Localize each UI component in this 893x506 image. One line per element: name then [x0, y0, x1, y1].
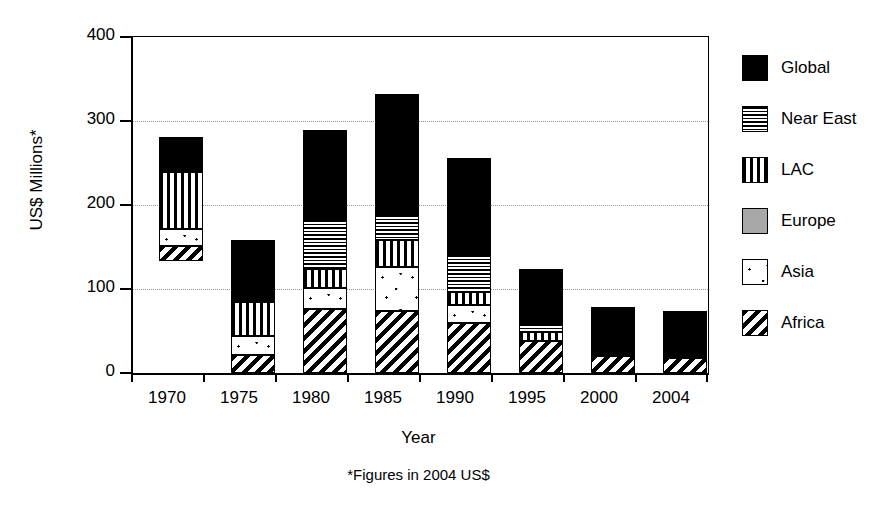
y-tick-mark-200	[120, 204, 131, 206]
bar-2004-segment-africa	[663, 358, 707, 373]
x-axis-title: Year	[131, 428, 706, 448]
bar-1975-segment-lac	[231, 302, 275, 336]
x-tick-label-1980: 1980	[276, 389, 346, 406]
y-tick-mark-400	[120, 36, 131, 38]
legend-swatch-global-icon	[742, 55, 768, 81]
y-axis-title: US$ Millions*	[27, 80, 47, 280]
bar-2000-segment-africa	[591, 356, 635, 373]
legend-label-global: Global	[781, 58, 830, 78]
bar-2004-segment-global	[663, 311, 707, 358]
bar-1970-segment-lac	[159, 172, 203, 229]
legend-swatch-lac-icon	[742, 157, 768, 183]
x-tick-mark-7	[635, 373, 637, 382]
bar-1980-segment-lac	[303, 269, 347, 288]
bar-1980-segment-global	[303, 130, 347, 219]
bar-1990-segment-near-east	[447, 254, 491, 292]
y-tick-label-200: 200	[60, 194, 115, 211]
legend-swatch-africa-icon	[742, 310, 768, 336]
bar-1975-segment-global	[231, 240, 275, 302]
x-tick-mark-3	[347, 373, 349, 382]
bar-1970-segment-africa	[159, 246, 203, 261]
legend-item-europe[interactable]: Europe	[742, 195, 892, 246]
x-tick-mark-1	[203, 373, 205, 382]
bar-1980-segment-africa	[303, 309, 347, 373]
plot-area	[131, 36, 709, 375]
bar-1995-segment-africa	[519, 341, 563, 373]
legend-label-africa: Africa	[781, 313, 824, 333]
x-tick-label-1985: 1985	[348, 389, 418, 406]
bar-1985-segment-africa	[375, 311, 419, 373]
bar-1975[interactable]	[231, 37, 275, 373]
x-tick-mark-0	[131, 373, 133, 382]
chart-legend: Global Near East LAC Europe Asia Africa	[742, 42, 892, 348]
y-tick-mark-100	[120, 288, 131, 290]
bar-1980-segment-asia	[303, 288, 347, 309]
x-tick-mark-6	[563, 373, 565, 382]
bar-1990-segment-africa	[447, 323, 491, 373]
x-tick-mark-4	[419, 373, 421, 382]
legend-label-near-east: Near East	[781, 109, 857, 129]
bar-1970-segment-asia	[159, 229, 203, 246]
bar-1985[interactable]	[375, 37, 419, 373]
legend-swatch-europe-icon	[742, 208, 768, 234]
bar-1995-segment-lac	[519, 332, 563, 341]
chart-footnote: *Figures in 2004 US$	[131, 466, 706, 483]
legend-swatch-near-east-icon	[742, 106, 768, 132]
bar-1985-segment-global	[375, 94, 419, 214]
bar-1970-segment-global	[159, 137, 203, 172]
legend-item-africa[interactable]: Africa	[742, 297, 892, 348]
bar-1990-segment-lac	[447, 292, 491, 305]
bar-1990[interactable]	[447, 37, 491, 373]
y-tick-label-300: 300	[60, 110, 115, 127]
bar-1985-segment-asia	[375, 267, 419, 311]
x-tick-mark-2	[275, 373, 277, 382]
legend-label-europe: Europe	[781, 211, 836, 231]
x-tick-label-1975: 1975	[204, 389, 274, 406]
bar-1975-segment-asia	[231, 336, 275, 355]
bar-2004[interactable]	[663, 37, 707, 373]
legend-item-near-east[interactable]: Near East	[742, 93, 892, 144]
bar-1995-segment-near-east	[519, 323, 563, 332]
bar-1980[interactable]	[303, 37, 347, 373]
y-tick-label-0: 0	[60, 362, 115, 379]
bar-1985-segment-near-east	[375, 214, 419, 240]
bar-2000[interactable]	[591, 37, 635, 373]
bar-2000-segment-global	[591, 307, 635, 356]
bar-1990-segment-asia	[447, 305, 491, 323]
legend-label-lac: LAC	[781, 160, 814, 180]
legend-item-lac[interactable]: LAC	[742, 144, 892, 195]
x-tick-mark-8	[706, 373, 708, 382]
legend-item-global[interactable]: Global	[742, 42, 892, 93]
stacked-bar-chart-figure: US$ Millions* 400 300 200 100 0	[0, 0, 893, 506]
legend-item-asia[interactable]: Asia	[742, 246, 892, 297]
y-tick-mark-0	[120, 372, 131, 374]
x-tick-label-1970: 1970	[132, 389, 202, 406]
x-tick-mark-5	[491, 373, 493, 382]
bar-1985-segment-lac	[375, 240, 419, 267]
y-tick-label-100: 100	[60, 278, 115, 295]
y-tick-mark-300	[120, 120, 131, 122]
bar-1995-segment-global	[519, 269, 563, 323]
bar-1970[interactable]	[159, 37, 203, 373]
x-tick-label-1995: 1995	[492, 389, 562, 406]
legend-swatch-asia-icon	[742, 259, 768, 285]
bar-1990-segment-global	[447, 158, 491, 254]
bar-1980-segment-near-east	[303, 219, 347, 269]
x-tick-label-2004: 2004	[636, 389, 706, 406]
x-tick-label-1990: 1990	[420, 389, 490, 406]
y-tick-label-400: 400	[60, 26, 115, 43]
legend-label-asia: Asia	[781, 262, 814, 282]
x-tick-label-2000: 2000	[564, 389, 634, 406]
bar-1995[interactable]	[519, 37, 563, 373]
bar-1975-segment-africa	[231, 355, 275, 373]
